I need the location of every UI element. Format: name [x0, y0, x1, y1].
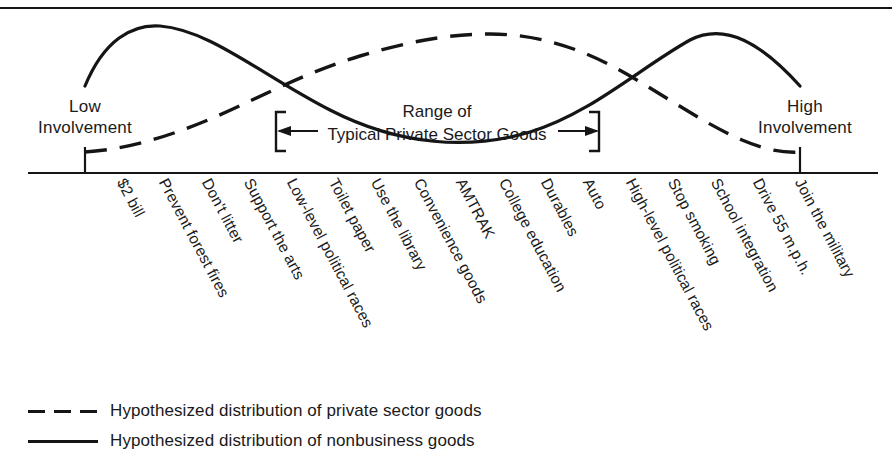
involvement-distribution-figure: Low Involvement High Involvement Range o… — [0, 0, 892, 476]
category-label: AMTRAK — [453, 176, 498, 241]
range-annotation-line2: Typical Private Sector Goods — [297, 123, 577, 146]
axis-label-low-involvement: Low Involvement — [14, 96, 156, 138]
legend-row: Hypothesized distribution of nonbusiness… — [0, 428, 892, 458]
range-annotation-text: Range of Typical Private Sector Goods — [297, 100, 577, 146]
range-arrow-right-head — [585, 126, 599, 136]
range-annotation-line1: Range of — [297, 100, 577, 123]
category-label: Auto — [580, 176, 609, 212]
axis-label-high-line2: Involvement — [730, 117, 880, 138]
axis-label-high-line1: High — [730, 96, 880, 117]
category-axis-labels: $2 billPrevent forest firesDon't litterS… — [0, 176, 892, 376]
legend-label: Hypothesized distribution of nonbusiness… — [110, 428, 475, 454]
range-arrow-left-head — [277, 126, 291, 136]
legend-row: Hypothesized distribution of private sec… — [0, 398, 892, 428]
legend-dashed-line-icon — [28, 410, 98, 413]
axis-label-high-involvement: High Involvement — [730, 96, 880, 138]
category-label: Don't litter — [199, 176, 246, 246]
category-label: Durables — [538, 176, 582, 239]
axis-label-low-line1: Low — [14, 96, 156, 117]
category-label: $2 bill — [114, 176, 147, 220]
legend-solid-line-icon — [28, 440, 98, 443]
axis-label-low-line2: Involvement — [14, 117, 156, 138]
legend-label: Hypothesized distribution of private sec… — [110, 398, 482, 424]
figure-legend: Hypothesized distribution of private sec… — [0, 398, 892, 458]
